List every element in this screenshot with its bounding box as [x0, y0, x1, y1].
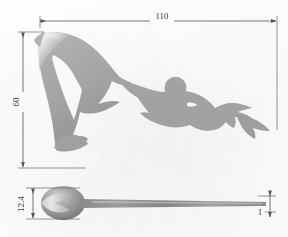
technical-drawing: 110 60 12.4	[0, 0, 288, 237]
drawing-canvas: 110 60 12.4	[0, 0, 288, 237]
dim-value-124: 12.4	[16, 196, 26, 212]
dim-value-60: 60	[11, 97, 21, 107]
dim-value-110: 110	[155, 11, 169, 21]
dim-value-1: 1	[258, 207, 263, 217]
